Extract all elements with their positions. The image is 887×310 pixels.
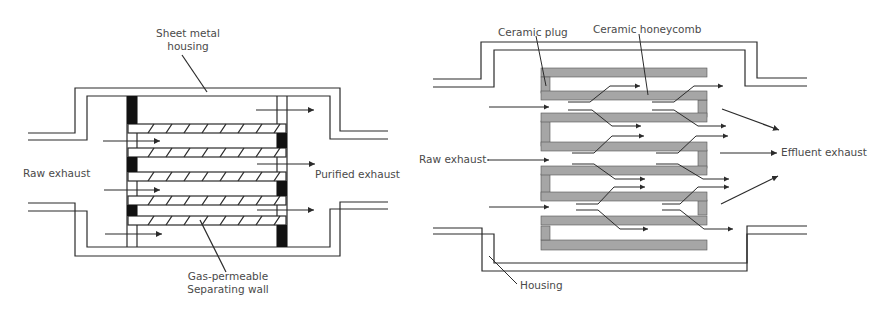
sheet-metal-housing-label: Sheet metal housing bbox=[140, 27, 236, 53]
purified-exhaust-label: Purified exhaust bbox=[315, 168, 400, 181]
housing-label-line2: housing bbox=[140, 40, 236, 53]
left-filter-diagram bbox=[28, 55, 388, 272]
housing-label-line1: Sheet metal bbox=[140, 27, 236, 40]
wall-leader-line bbox=[200, 220, 226, 272]
honeycomb-leader-line bbox=[639, 34, 648, 95]
raw-exhaust-label-right: Raw exhaust bbox=[419, 153, 486, 166]
left-housing-outer-bottom bbox=[28, 202, 388, 256]
left-housing-inner-bottom bbox=[28, 209, 388, 247]
gas-permeable-wall-label: Gas-permeable Separating wall bbox=[178, 270, 278, 296]
ceramic-honeycomb-label: Ceramic honeycomb bbox=[593, 23, 701, 36]
housing-leader-line-right bbox=[489, 256, 517, 284]
effluent-exhaust-label: Effluent exhaust bbox=[781, 146, 867, 159]
raw-exhaust-label-left: Raw exhaust bbox=[23, 167, 90, 180]
housing-leader-line bbox=[182, 55, 207, 92]
housing-label-right: Housing bbox=[520, 279, 563, 292]
wall-label-line1: Gas-permeable bbox=[178, 270, 278, 283]
wall-label-line2: Separating wall bbox=[178, 283, 278, 296]
ceramic-plug-label: Ceramic plug bbox=[498, 26, 568, 39]
